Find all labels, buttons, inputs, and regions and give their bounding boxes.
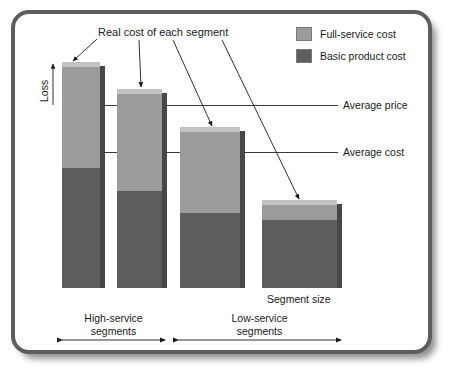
leader-arrow-segment-3: [173, 40, 212, 126]
reference-label-average-price: Average price: [343, 99, 408, 111]
swatch-icon: [296, 27, 312, 41]
bar-face: [62, 62, 100, 288]
group-label-low-service-line1: Low-service: [178, 312, 341, 325]
bar-side-face: [100, 66, 105, 288]
group-label-high-service-line1: High-service: [62, 312, 165, 325]
group-label-low-service-line2: segments: [178, 325, 341, 338]
bar-face: [180, 127, 240, 288]
legend-item-basic-product: Basic product cost: [296, 47, 406, 65]
plot-area: Real cost of each segment Loss Average p…: [0, 0, 453, 375]
swatch-icon: [296, 49, 312, 63]
leader-arrow-segment-1: [73, 39, 97, 61]
figure-canvas: Real cost of each segment Loss Average p…: [0, 0, 453, 375]
bar-segment-2: [117, 89, 167, 288]
reference-label-average-cost: Average cost: [343, 146, 404, 158]
bar-segment-1: [62, 62, 105, 288]
bar-segment-3: [180, 127, 245, 288]
bar-top-cap: [117, 89, 162, 94]
bar-face: [117, 89, 162, 288]
bar-segment-full-service: [62, 62, 100, 168]
bar-side-face: [337, 204, 342, 288]
y-axis-label: Loss: [38, 80, 50, 102]
x-axis-label-segment-size: Segment size: [267, 293, 331, 305]
bar-segment-4: [262, 200, 342, 288]
bar-segment-basic-product: [262, 220, 337, 288]
legend-item-full-service: Full-service cost: [296, 25, 406, 43]
bar-top-cap: [180, 127, 240, 132]
bar-face: [262, 200, 337, 288]
bar-side-face: [240, 131, 245, 288]
bar-top-cap: [62, 62, 100, 67]
bar-segment-basic-product: [180, 213, 240, 288]
bar-segment-basic-product: [62, 168, 100, 288]
annotation-title: Real cost of each segment: [98, 26, 228, 38]
leader-arrow-segment-2: [139, 40, 141, 87]
bar-segment-full-service: [117, 89, 162, 191]
bar-segment-full-service: [180, 127, 240, 213]
bar-side-face: [162, 93, 167, 288]
bar-top-cap: [262, 200, 337, 205]
legend-label-full-service: Full-service cost: [320, 28, 396, 40]
legend-label-basic-product: Basic product cost: [320, 50, 406, 62]
group-label-low-service: Low-service segments: [178, 312, 341, 337]
group-label-high-service-line2: segments: [62, 325, 165, 338]
legend: Full-service cost Basic product cost: [296, 25, 406, 69]
bar-segment-basic-product: [117, 191, 162, 288]
group-label-high-service: High-service segments: [62, 312, 165, 337]
